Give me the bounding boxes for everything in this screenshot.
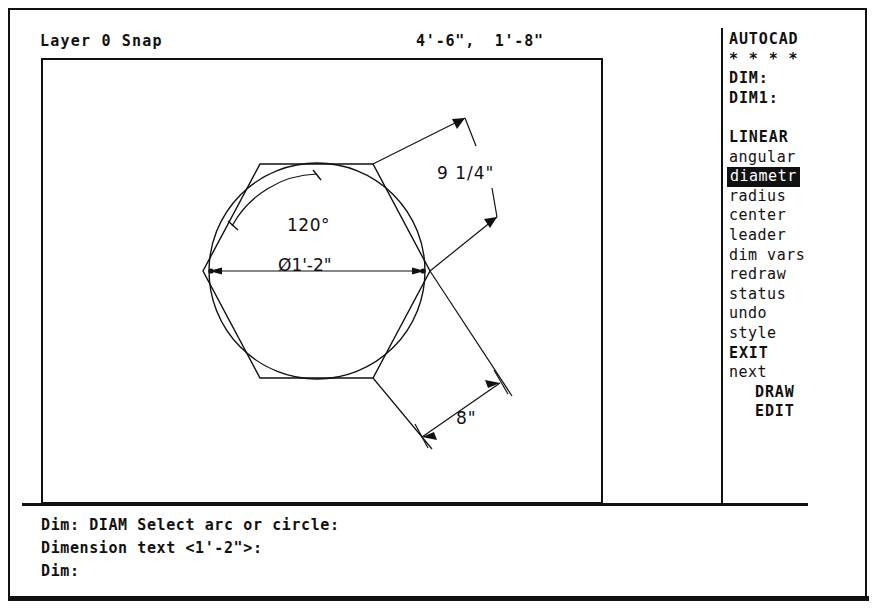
- menu-item-linear[interactable]: LINEAR: [729, 128, 859, 148]
- menu-item-diametr[interactable]: diametr: [729, 167, 859, 187]
- command-line-2: Dimension text <1'-2">:: [41, 537, 741, 560]
- menu-item-radius[interactable]: radius: [729, 187, 859, 207]
- menu-item-next[interactable]: next: [729, 363, 859, 383]
- menu-item-status[interactable]: status: [729, 285, 859, 305]
- linear-dimension-label-bottom: 8": [456, 408, 477, 428]
- menu-item-center[interactable]: center: [729, 206, 859, 226]
- menu-item-exit[interactable]: EXIT: [729, 344, 859, 364]
- status-coordinates[interactable]: 4'-6", 1'-8": [416, 32, 544, 50]
- command-line-3[interactable]: Dim:: [41, 560, 741, 583]
- menu-bottom-rule: [22, 503, 808, 506]
- diameter-dimension-label: Ø1'-2": [278, 255, 332, 275]
- menu-item-undo[interactable]: undo: [729, 304, 859, 324]
- menu-item-redraw[interactable]: redraw: [729, 265, 859, 285]
- menu-stars[interactable]: * * * *: [729, 50, 859, 70]
- menu-item-draw[interactable]: DRAW: [729, 383, 859, 403]
- menu-item-leader[interactable]: leader: [729, 226, 859, 246]
- menu-title: AUTOCAD: [729, 30, 859, 50]
- menu-item-style[interactable]: style: [729, 324, 859, 344]
- angular-dimension-label: 120°: [287, 215, 330, 235]
- menu-item-dim-vars[interactable]: dim vars: [729, 246, 859, 266]
- command-line-1: Dim: DIAM Select arc or circle:: [41, 514, 741, 537]
- menu-item-selected-highlight[interactable]: diametr: [727, 167, 800, 187]
- bottom-rule: [8, 596, 869, 601]
- menu-divider: [721, 28, 723, 504]
- autocad-screen: Layer 0 Snap 4'-6", 1'-8" .ln { fill:non…: [0, 0, 877, 615]
- menu-item-edit[interactable]: EDIT: [729, 402, 859, 422]
- status-layer-label[interactable]: Layer 0 Snap: [40, 32, 163, 50]
- menu-item-angular[interactable]: angular: [729, 148, 859, 168]
- linear-dimension-label-right: 9 1/4": [437, 163, 494, 183]
- menu-item-dim[interactable]: DIM:: [729, 69, 859, 89]
- menu-spacer: [729, 108, 859, 128]
- drawing-area[interactable]: [41, 58, 603, 504]
- menu-item-dim1[interactable]: DIM1:: [729, 89, 859, 109]
- command-prompt-area[interactable]: Dim: DIAM Select arc or circle: Dimensio…: [41, 514, 741, 583]
- menu-item-list[interactable]: LINEARangulardiametrradiuscenterleaderdi…: [729, 128, 859, 422]
- side-menu[interactable]: AUTOCAD * * * * DIM: DIM1: LINEARangular…: [729, 30, 859, 422]
